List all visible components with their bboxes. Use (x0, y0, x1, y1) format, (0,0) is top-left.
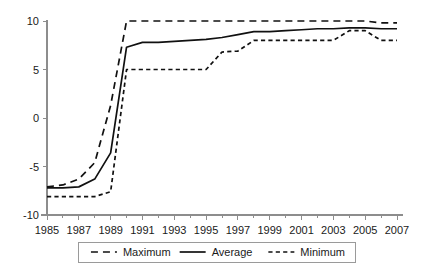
x-tick-label: 1997 (226, 224, 250, 236)
x-tick-label: 1999 (257, 224, 281, 236)
x-tick-label: 2005 (353, 224, 377, 236)
x-tick-label: 1991 (130, 224, 154, 236)
x-tick-label: 2007 (385, 224, 409, 236)
y-tick-label: 0 (33, 112, 39, 124)
y-axis-ticks: 1050-5-10 (23, 15, 47, 221)
line-chart: 1050-5-10 198519871989199119931995199719… (0, 0, 434, 278)
x-tick-label: 2001 (289, 224, 313, 236)
legend-label-average: Average (212, 246, 253, 258)
y-tick-label: -5 (29, 161, 39, 173)
x-tick-label: 1987 (67, 224, 91, 236)
chart-figure: 1050-5-10 198519871989199119931995199719… (0, 0, 434, 278)
y-tick-label: 10 (27, 15, 39, 27)
x-tick-label: 2003 (321, 224, 345, 236)
x-tick-label: 1989 (98, 224, 122, 236)
y-tick-label: -10 (23, 209, 39, 221)
x-axis-ticks: 1985198719891991199319951997199920012003… (35, 215, 409, 236)
x-tick-label: 1993 (162, 224, 186, 236)
chart-legend: MaximumAverageMinimum (79, 242, 355, 262)
x-tick-label: 1985 (35, 224, 59, 236)
x-tick-label: 1995 (194, 224, 218, 236)
legend-label-minimum: Minimum (300, 246, 345, 258)
series-line-maximum (47, 21, 397, 187)
y-tick-label: 5 (33, 64, 39, 76)
legend-label-maximum: Maximum (123, 246, 171, 258)
series-lines (47, 21, 397, 197)
